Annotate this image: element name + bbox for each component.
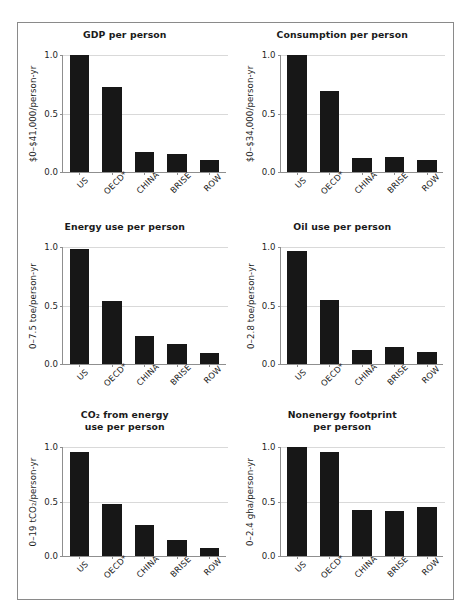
- y-axis-label-text: $0–$34,000/person-yr: [246, 66, 256, 163]
- bar-slot: [128, 55, 161, 172]
- bar-slot: [281, 55, 314, 172]
- bar-slot: [281, 247, 314, 364]
- x-tick-label-china: CHINA: [135, 361, 161, 387]
- bar-oecd[interactable]: [102, 87, 122, 172]
- x-tick-label-brise: BRISE: [168, 362, 193, 387]
- x-tick-label-row: ROW: [419, 172, 441, 194]
- bar-us[interactable]: [287, 55, 307, 172]
- panel-energy-use-per-person: Energy use per person 0–7.5 toe/person-y…: [18, 215, 236, 407]
- bar-china[interactable]: [352, 350, 372, 364]
- bar-us[interactable]: [70, 249, 90, 364]
- panel-title-line1: CO₂ from energy: [18, 409, 232, 421]
- bar-slot: [161, 447, 194, 556]
- axes: 1.0 0.5 0.0 US OECD* CHINA BRISE: [62, 55, 226, 173]
- y-tick-label: 0.5: [262, 109, 276, 119]
- x-axis-labels: US OECD* CHINA BRISE ROW: [63, 172, 226, 212]
- y-tick-label: 0.0: [44, 551, 58, 561]
- bar-slot: [411, 447, 444, 556]
- x-tick-label-us: US: [75, 559, 90, 574]
- bar-group: [281, 55, 444, 172]
- bar-china[interactable]: [352, 510, 372, 556]
- panel-title: Consumption per person: [236, 29, 450, 41]
- plot-area: 1.0 0.5 0.0 US OECD* CHINA BRISE: [62, 55, 226, 173]
- bar-brise[interactable]: [385, 347, 405, 364]
- panel-title-line2: per person: [236, 421, 450, 433]
- bar-row[interactable]: [417, 507, 437, 556]
- x-tick-label-oecd: OECD*: [319, 361, 347, 389]
- y-axis-label: 0–2.8 toe/person-yr: [244, 247, 258, 365]
- bar-us[interactable]: [70, 452, 90, 556]
- bar-oecd[interactable]: [102, 301, 122, 364]
- bar-us[interactable]: [70, 55, 90, 172]
- plot-area: 1.0 0.5 0.0 US OECD* CHINA BRISE: [280, 447, 444, 557]
- x-tick-label-oecd: OECD*: [319, 169, 347, 197]
- bar-brise[interactable]: [167, 154, 187, 172]
- bar-group: [63, 55, 226, 172]
- bar-group: [63, 247, 226, 364]
- bar-slot: [193, 247, 226, 364]
- y-tick-label: 1.0: [44, 242, 58, 252]
- plot-area: 1.0 0.5 0.0 US OECD* CHINA BRISE: [62, 247, 226, 365]
- bar-china[interactable]: [135, 152, 155, 172]
- bar-group: [63, 447, 226, 556]
- axes: 1.0 0.5 0.0 US OECD* CHINA BRISE: [280, 247, 444, 365]
- x-tick-label-oecd: OECD*: [101, 169, 129, 197]
- y-axis-label: $0–$34,000/person-yr: [244, 55, 258, 173]
- bar-slot: [96, 55, 129, 172]
- axes: 1.0 0.5 0.0 US OECD* CHINA BRISE: [62, 447, 226, 557]
- bar-row[interactable]: [417, 352, 437, 364]
- x-tick-label-brise: BRISE: [168, 554, 193, 579]
- x-tick-label-china: CHINA: [352, 361, 378, 387]
- x-axis-labels: US OECD* CHINA BRISE ROW: [63, 556, 226, 596]
- y-tick-label: 0.0: [44, 167, 58, 177]
- panel-grid: GDP per person $0–$41,000/person-yr 1.0 …: [18, 23, 453, 599]
- x-tick-label-us: US: [293, 559, 308, 574]
- bar-slot: [346, 247, 379, 364]
- bar-slot: [346, 447, 379, 556]
- panel-title: Nonenergy footprint per person: [236, 409, 450, 432]
- bar-china[interactable]: [352, 158, 372, 172]
- bar-oecd[interactable]: [102, 504, 122, 556]
- bar-slot: [193, 447, 226, 556]
- bar-us[interactable]: [287, 251, 307, 364]
- y-axis-label-text: 0–7.5 toe/person-yr: [28, 263, 38, 349]
- bar-oecd[interactable]: [320, 91, 340, 172]
- y-tick-label: 0.5: [262, 301, 276, 311]
- y-tick-label: 0.0: [262, 167, 276, 177]
- x-tick-label-brise: BRISE: [385, 170, 410, 195]
- bar-brise[interactable]: [385, 157, 405, 172]
- panel-consumption-per-person: Consumption per person $0–$34,000/person…: [236, 23, 454, 215]
- x-axis-labels: US OECD* CHINA BRISE ROW: [63, 364, 226, 404]
- x-tick-label-us: US: [75, 367, 90, 382]
- bar-china[interactable]: [135, 336, 155, 364]
- figure-frame: GDP per person $0–$41,000/person-yr 1.0 …: [17, 22, 454, 600]
- x-tick-label-us: US: [75, 175, 90, 190]
- x-tick-label-row: ROW: [202, 172, 224, 194]
- bar-slot: [63, 447, 96, 556]
- bar-brise[interactable]: [167, 540, 187, 556]
- x-tick-label-oecd: OECD*: [101, 361, 129, 389]
- x-tick-label-china: CHINA: [352, 553, 378, 579]
- bar-slot: [193, 55, 226, 172]
- x-axis-labels: US OECD* CHINA BRISE ROW: [281, 556, 444, 596]
- bar-us[interactable]: [287, 447, 307, 556]
- x-tick-label-row: ROW: [202, 364, 224, 386]
- y-tick-label: 1.0: [44, 50, 58, 60]
- panel-title: Oil use per person: [236, 221, 450, 233]
- bar-brise[interactable]: [167, 344, 187, 364]
- bar-slot: [378, 247, 411, 364]
- bar-oecd[interactable]: [320, 452, 340, 556]
- panel-oil-use-per-person: Oil use per person 0–2.8 toe/person-yr 1…: [236, 215, 454, 407]
- panel-title: Energy use per person: [18, 221, 232, 233]
- bar-china[interactable]: [135, 525, 155, 556]
- bar-row[interactable]: [417, 160, 437, 172]
- y-tick-label: 0.5: [44, 301, 58, 311]
- bar-brise[interactable]: [385, 511, 405, 556]
- x-tick-label-china: CHINA: [135, 553, 161, 579]
- bar-slot: [411, 55, 444, 172]
- x-axis-labels: US OECD* CHINA BRISE ROW: [281, 172, 444, 212]
- x-tick-label-oecd: OECD*: [319, 553, 347, 581]
- bar-oecd[interactable]: [320, 300, 340, 364]
- x-tick-label-brise: BRISE: [385, 362, 410, 387]
- panel-title: CO₂ from energy use per person: [18, 409, 232, 432]
